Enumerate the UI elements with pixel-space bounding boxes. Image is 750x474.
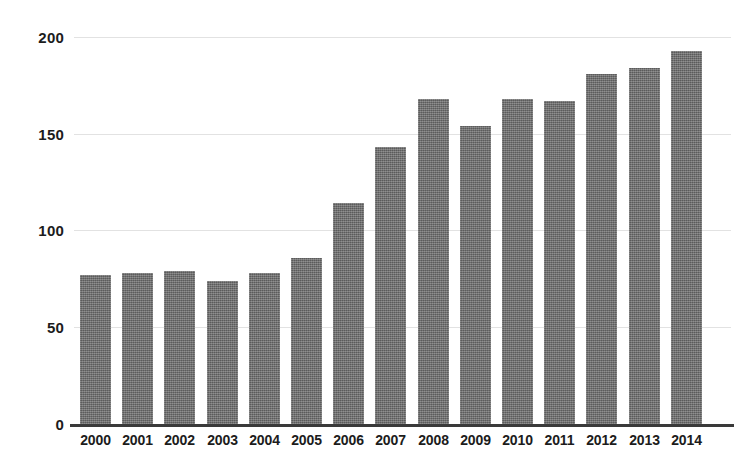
x-axis-tick-label-2008: 2008 [412, 432, 456, 448]
x-axis-tick-label-2014: 2014 [665, 432, 709, 448]
bar-2000 [80, 275, 111, 424]
x-axis-tick-label-2000: 2000 [74, 432, 118, 448]
x-axis-tick-label-2007: 2007 [369, 432, 413, 448]
bar-2004 [249, 273, 280, 424]
x-axis-tick-label-2012: 2012 [580, 432, 624, 448]
x-axis-tick-label-2010: 2010 [496, 432, 540, 448]
x-axis-tick-label-2002: 2002 [158, 432, 202, 448]
x-axis-tick-label-2003: 2003 [201, 432, 245, 448]
bar-2001 [122, 273, 153, 424]
bar-2008 [418, 99, 449, 424]
bar-2005 [291, 258, 322, 424]
bar-2007 [375, 147, 406, 424]
bar-2006 [333, 203, 364, 424]
x-axis-tick-label-2013: 2013 [623, 432, 667, 448]
x-axis-tick-label-2011: 2011 [538, 432, 582, 448]
bar-2009 [460, 126, 491, 424]
bar-2012 [586, 74, 617, 424]
x-axis-tick-label-2001: 2001 [116, 432, 160, 448]
bar-2002 [164, 271, 195, 424]
bars-layer: 2000200120022003200420052006200720082009… [0, 0, 750, 474]
x-axis-tick-label-2004: 2004 [243, 432, 287, 448]
bar-2010 [502, 99, 533, 424]
x-axis-tick-label-2006: 2006 [327, 432, 371, 448]
x-axis-tick-label-2005: 2005 [285, 432, 329, 448]
bar-2011 [544, 101, 575, 424]
bar-chart: 200 150 100 50 0 20002001200220032004200… [0, 0, 750, 474]
bar-2014 [671, 51, 702, 424]
bar-2003 [207, 281, 238, 424]
bar-2013 [629, 68, 660, 424]
x-axis-tick-label-2009: 2009 [454, 432, 498, 448]
